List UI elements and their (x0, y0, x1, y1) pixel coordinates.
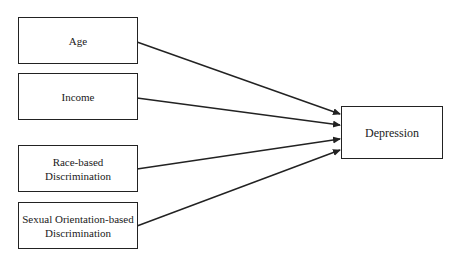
node-sexual-label-line1: Sexual Orientation-based (22, 212, 134, 226)
node-race-label-line1: Race-based (53, 155, 104, 169)
node-age: Age (18, 17, 138, 64)
node-income-label: Income (62, 90, 95, 104)
arrow-race-to-depression (137, 139, 340, 169)
node-race-label-line2: Discrimination (45, 169, 111, 183)
node-age-label: Age (69, 34, 87, 48)
node-income: Income (18, 73, 138, 120)
arrow-income-to-depression (137, 98, 340, 125)
arrow-sexual-to-depression (137, 150, 340, 226)
arrow-age-to-depression (137, 42, 340, 114)
node-sexual-label-line2: Discrimination (45, 226, 111, 240)
node-depression: Depression (341, 106, 443, 159)
node-sexual-orientation-based-discrimination: Sexual Orientation-based Discrimination (18, 202, 138, 249)
node-depression-label: Depression (365, 126, 419, 140)
node-race-based-discrimination: Race-based Discrimination (18, 145, 138, 192)
